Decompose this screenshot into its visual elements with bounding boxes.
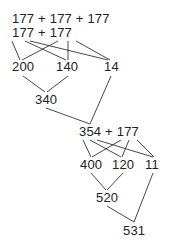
- stage2-partial-sum: 520: [96, 191, 118, 205]
- addition-row-second: 354 + 177: [79, 125, 139, 139]
- addition-row-three-terms: 177 + 177 + 177: [12, 12, 110, 26]
- stage1-tens: 140: [56, 60, 78, 74]
- stage1-hundreds: 200: [12, 60, 34, 74]
- final-total: 531: [123, 224, 145, 238]
- stage1-partial-sum: 340: [35, 93, 57, 107]
- stage1-ones: 14: [104, 60, 119, 74]
- addition-row-two-terms: 177 + 177: [12, 26, 72, 40]
- stage2-hundreds: 400: [80, 158, 102, 172]
- stage2-ones: 11: [145, 158, 159, 172]
- stage2-tens: 120: [112, 158, 134, 172]
